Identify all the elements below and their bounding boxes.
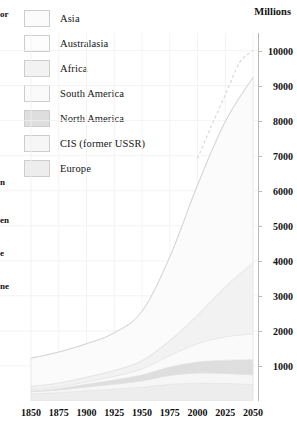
x-axis-tick-label: 1975 <box>160 407 180 418</box>
legend-item[interactable]: Asia <box>24 6 174 31</box>
y-axis-tick-mark <box>258 226 262 227</box>
y-axis-tick-label: 7000 <box>273 150 293 161</box>
y-axis-tick-mark <box>258 191 262 192</box>
x-axis-tick-label: 2025 <box>215 407 235 418</box>
y-axis-tick-mark <box>258 366 262 367</box>
y-axis-tick-label: 2000 <box>273 325 293 336</box>
y-axis-tick-mark <box>258 51 262 52</box>
x-axis-tick-label: 1925 <box>104 407 124 418</box>
plot-area <box>0 33 258 401</box>
y-axis-tick-mark <box>258 261 262 262</box>
y-axis-tick-label: 8000 <box>273 115 293 126</box>
y-axis-line <box>258 33 259 401</box>
y-axis: 1000200030004000500060007000800090001000… <box>258 33 297 401</box>
y-axis-tick-mark <box>258 86 262 87</box>
y-axis-tick-label: 10000 <box>268 45 293 56</box>
y-axis-tick-mark <box>258 296 262 297</box>
x-axis-tick-label: 1900 <box>77 407 97 418</box>
legend-swatch <box>24 10 50 27</box>
y-axis-tick-label: 3000 <box>273 290 293 301</box>
stacked-area-svg <box>0 33 258 401</box>
y-axis-tick-label: 9000 <box>273 80 293 91</box>
y-axis-tick-mark <box>258 156 262 157</box>
chart-stage: ornenene AsiaAustralasiaAfricaSouth Amer… <box>0 0 297 424</box>
y-axis-tick-mark <box>258 331 262 332</box>
y-axis-tick-label: 5000 <box>273 220 293 231</box>
y-axis-tick-label: 6000 <box>273 185 293 196</box>
x-axis-tick-label: 2000 <box>188 407 208 418</box>
y-axis-tick-label: 4000 <box>273 255 293 266</box>
x-axis: 185018751900192519501975200020252050 <box>0 401 297 424</box>
edge-fragment: or <box>0 9 9 19</box>
x-axis-tick-label: 1950 <box>132 407 152 418</box>
y-axis-tick-label: 1000 <box>273 360 293 371</box>
x-axis-tick-label: 1850 <box>21 407 41 418</box>
x-axis-tick-label: 2050 <box>243 407 263 418</box>
y-axis-tick-mark <box>258 121 262 122</box>
x-axis-tick-label: 1875 <box>49 407 69 418</box>
y-axis-title: Millions <box>254 6 291 17</box>
legend-label: Asia <box>60 13 80 24</box>
